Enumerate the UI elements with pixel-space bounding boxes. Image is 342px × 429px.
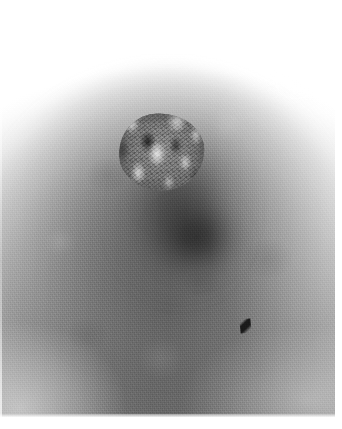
central-lesion [119, 114, 204, 191]
hair-fleck-mark [239, 318, 251, 333]
photograph-print-area: Grayscale close-up clinical photograph o… [0, 0, 335, 417]
clinical-photograph-frame: Grayscale close-up clinical photograph o… [0, 0, 342, 429]
print-margin-right [335, 0, 342, 429]
print-margin-top [0, 0, 342, 2]
print-margin-left [0, 0, 2, 429]
print-margin-bottom [0, 417, 342, 429]
lesion-edge-feather [119, 114, 204, 191]
highlight-band-bottom-right [0, 0, 335, 417]
